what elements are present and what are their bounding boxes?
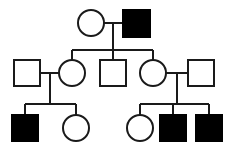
individual-II-4-female-unaffected[interactable] <box>140 60 166 86</box>
individual-II-3-male-unaffected[interactable] <box>100 60 126 86</box>
individual-III-5-male-affected[interactable] <box>196 115 222 141</box>
individual-III-4-male-affected[interactable] <box>160 115 186 141</box>
pedigree-canvas <box>0 0 235 154</box>
individual-III-2-female-unaffected[interactable] <box>63 115 89 141</box>
individual-I-2-male-affected[interactable] <box>123 10 150 37</box>
individual-III-1-male-affected[interactable] <box>12 115 38 141</box>
generation-3-group <box>12 115 222 141</box>
generation-2-group <box>14 60 214 115</box>
individual-I-1-female-unaffected[interactable] <box>78 10 104 36</box>
individual-II-5-male-unaffected[interactable] <box>188 60 214 86</box>
pedigree-chart <box>0 0 235 154</box>
individual-II-2-female-unaffected[interactable] <box>59 60 85 86</box>
generation-1-group <box>72 10 153 60</box>
individual-II-1-male-unaffected[interactable] <box>14 60 40 86</box>
individual-III-3-female-unaffected[interactable] <box>127 115 153 141</box>
